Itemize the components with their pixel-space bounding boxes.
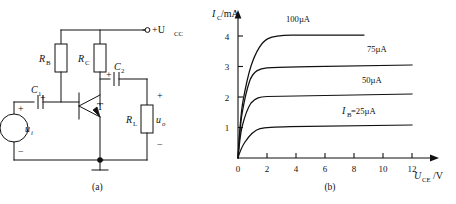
- resistor-rb-label: R: [38, 53, 45, 64]
- caption-b: (b): [324, 182, 335, 193]
- output-characteristics-chart: 1 2 3 4 0 2 4 6 8 10 12: [210, 0, 456, 204]
- resistor-rl-sub: L: [133, 120, 137, 127]
- supply-terminal-dot: [145, 28, 150, 33]
- x-ticks: 0 2 4 6 8 10 12: [236, 153, 417, 174]
- x-tick-label-6: 6: [323, 164, 328, 174]
- resistor-rc-label: R: [77, 53, 84, 64]
- y-tick-label-2: 2: [225, 93, 230, 103]
- x-tick-label-8: 8: [352, 164, 357, 174]
- output-uo-label: u: [156, 114, 161, 125]
- circuit-panel: R B R C R L C 1 C 2 T u i u o +U CC + + …: [0, 0, 228, 204]
- resistor-rc-sub: C: [85, 59, 90, 66]
- source-minus: −: [18, 146, 24, 157]
- capacitor-c1-plus: +: [40, 92, 46, 103]
- curve-75ua: [238, 65, 412, 158]
- curve-label-25ua-main: I: [341, 105, 346, 116]
- supply-label: +U: [152, 24, 166, 35]
- x-tick-label-0: 0: [236, 164, 241, 174]
- x-axis-label-sub: CE: [422, 176, 431, 183]
- resistor-rb-body: [55, 44, 67, 72]
- y-tick-label-3: 3: [225, 62, 230, 72]
- source-ui-sub: i: [31, 129, 33, 136]
- curve-label-50ua: 50µA: [362, 75, 383, 85]
- x-axis-label-unit: /V: [433, 170, 444, 181]
- chart-panel: 1 2 3 4 0 2 4 6 8 10 12: [210, 0, 456, 204]
- x-tick-label-2: 2: [265, 164, 270, 174]
- source-ui-symbol: [0, 114, 28, 142]
- curve-label-75ua: 75µA: [367, 44, 388, 54]
- x-axis-arrow: [430, 154, 439, 161]
- resistor-rl-body: [141, 105, 153, 133]
- resistor-rc-body: [94, 44, 106, 72]
- capacitor-c2-plus: +: [106, 69, 112, 80]
- output-plus: +: [157, 90, 163, 101]
- curve-label-25ua: =25µA: [351, 106, 376, 116]
- resistor-rl-label: R: [125, 114, 132, 125]
- resistor-rb-sub: B: [46, 59, 51, 66]
- supply-sub: CC: [174, 30, 184, 37]
- transistor-label: T: [97, 101, 103, 112]
- capacitor-c1-label: C: [31, 84, 38, 95]
- x-axis-label-main: U: [414, 170, 422, 181]
- source-plus: +: [18, 103, 24, 114]
- capacitor-c2-label: C: [114, 61, 121, 72]
- figure-root: R B R C R L C 1 C 2 T u i u o +U CC + + …: [0, 0, 456, 204]
- output-minus: −: [157, 139, 163, 150]
- curve-label-100ua: 100µA: [286, 14, 311, 24]
- y-axis-label-unit: /mA: [221, 8, 240, 19]
- circuit-svg: R B R C R L C 1 C 2 T u i u o +U CC + + …: [0, 0, 228, 204]
- curve-label-25ua-group: I B =25µA: [341, 105, 376, 118]
- caption-a: (a): [92, 182, 103, 193]
- source-ui-label: u: [25, 123, 30, 134]
- capacitor-c2-sub: 2: [121, 67, 125, 74]
- y-axis-label-main: I: [211, 8, 216, 19]
- y-tick-label-1: 1: [225, 123, 230, 133]
- x-tick-label-4: 4: [294, 164, 299, 174]
- x-tick-label-10: 10: [379, 164, 389, 174]
- output-uo-sub: o: [162, 120, 166, 127]
- y-tick-label-4: 4: [225, 32, 230, 42]
